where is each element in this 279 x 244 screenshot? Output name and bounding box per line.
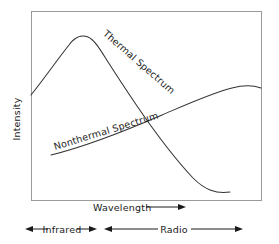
plot-frame (32, 12, 262, 201)
figure-spectrum-chart: Intensity Thermal Spectrum Nonthermal Sp… (0, 0, 279, 244)
x-axis-label: Wavelength (93, 203, 151, 213)
band-label-radio: Radio (160, 225, 188, 235)
wavelength-arrow-icon (146, 204, 186, 210)
y-axis-label: Intensity (12, 97, 22, 140)
band-label-infrared: Infrared (42, 225, 81, 235)
